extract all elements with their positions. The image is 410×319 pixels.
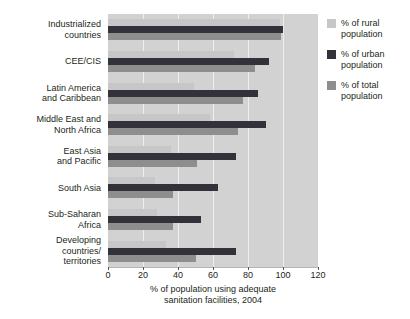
bar-urban xyxy=(108,184,218,191)
legend-swatch-urban xyxy=(327,50,336,59)
legend-item-total: % of total population xyxy=(327,80,407,102)
x-tick-label: 60 xyxy=(208,270,218,280)
x-tick-label: 20 xyxy=(138,270,148,280)
bar-urban xyxy=(108,248,236,255)
x-tick-label: 120 xyxy=(310,270,325,280)
bar-total xyxy=(108,255,196,262)
x-axis-title: % of population using adequate sanitatio… xyxy=(108,284,318,306)
bar-rural xyxy=(108,241,166,248)
bar-urban xyxy=(108,90,258,97)
x-axis-title-line1: % of population using adequate xyxy=(150,284,276,294)
legend: % of rural population% of urban populati… xyxy=(327,18,407,111)
bar-group xyxy=(108,14,318,46)
bar-urban xyxy=(108,153,236,160)
bar-rural xyxy=(108,83,194,90)
bar-rural xyxy=(108,19,280,26)
legend-item-rural: % of rural population xyxy=(327,18,407,40)
bar-rural xyxy=(108,114,210,121)
bar-total xyxy=(108,160,197,167)
x-axis: 020406080100120 xyxy=(108,267,318,281)
category-label: Sub-Saharan Africa xyxy=(0,204,104,236)
bar-group xyxy=(108,204,318,236)
legend-label-rural: % of rural population xyxy=(341,18,403,40)
bar-total xyxy=(108,65,255,72)
bar-total xyxy=(108,223,173,230)
bar-group xyxy=(108,109,318,141)
bar-urban xyxy=(108,58,269,65)
x-tick-label: 0 xyxy=(105,270,110,280)
bar-group xyxy=(108,172,318,204)
category-label: East Asia and Pacific xyxy=(0,141,104,173)
category-label: South Asia xyxy=(0,172,104,204)
bar-urban xyxy=(108,121,266,128)
bar-rural xyxy=(108,51,234,58)
legend-label-total: % of total population xyxy=(341,80,403,102)
category-label: CEE/CIS xyxy=(0,46,104,78)
legend-item-urban: % of urban population xyxy=(327,49,407,71)
bar-rural xyxy=(108,146,171,153)
bar-rural xyxy=(108,177,155,184)
category-label: Industrialized countries xyxy=(0,14,104,46)
x-tick-label: 100 xyxy=(275,270,290,280)
bar-rural xyxy=(108,209,157,216)
x-tick-label: 40 xyxy=(173,270,183,280)
bar-total xyxy=(108,97,243,104)
category-labels: Industrialized countriesCEE/CISLatin Ame… xyxy=(0,14,104,267)
bar-total xyxy=(108,33,281,40)
bar-urban xyxy=(108,216,201,223)
bar-group xyxy=(108,77,318,109)
legend-swatch-rural xyxy=(327,19,336,28)
bar-urban xyxy=(108,26,283,33)
sanitation-bar-chart: Industrialized countriesCEE/CISLatin Ame… xyxy=(0,0,410,319)
legend-swatch-total xyxy=(327,81,336,90)
category-label: Latin America and Caribbean xyxy=(0,77,104,109)
bar-group xyxy=(108,46,318,78)
bar-group xyxy=(108,235,318,267)
bar-group xyxy=(108,141,318,173)
x-tick-label: 80 xyxy=(243,270,253,280)
legend-label-urban: % of urban population xyxy=(341,49,403,71)
category-label: Developing countries/ territories xyxy=(0,235,104,267)
plot-area xyxy=(108,14,318,268)
x-axis-title-line2: sanitation facilities, 2004 xyxy=(164,295,262,305)
bar-total xyxy=(108,128,238,135)
category-label: Middle East and North Africa xyxy=(0,109,104,141)
bar-total xyxy=(108,191,173,198)
